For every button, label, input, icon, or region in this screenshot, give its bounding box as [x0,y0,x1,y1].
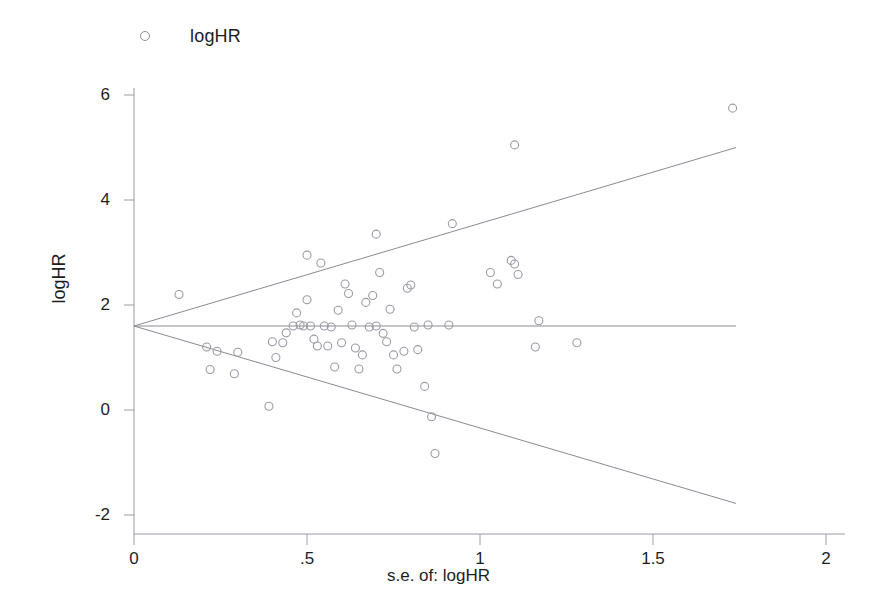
scatter-point [535,317,543,325]
scatter-point [379,329,387,337]
scatter-point [431,450,439,458]
scatter-point [369,292,377,300]
scatter-point [362,298,370,306]
scatter-point [383,338,391,346]
scatter-point [230,370,238,378]
scatter-point [414,346,422,354]
scatter-point [348,321,356,329]
y-tick-label-0: 0 [84,400,110,420]
plot-canvas [0,0,877,616]
scatter-point [729,104,737,112]
scatter-point [445,321,453,329]
y-tick-label-4: 4 [84,190,110,210]
scatter-point [514,271,522,279]
scatter-point [345,289,353,297]
scatter-point [338,339,346,347]
scatter-point [424,321,432,329]
scatter-point [448,220,456,228]
scatter-point [358,351,366,359]
scatter-point [341,280,349,288]
scatter-point [393,365,401,373]
funnel-plot-figure: logHR [0,0,877,616]
y-tick-label-2: 2 [84,295,110,315]
y-tick-label-neg2: -2 [76,505,110,525]
scatter-point [324,342,332,350]
scatter-point [486,268,494,276]
scatter-point [421,382,429,390]
y-axis-title: logHR [49,234,70,324]
scatter-point [400,347,408,355]
scatter-point [376,268,384,276]
scatter-point [313,342,321,350]
scatter-point [410,323,418,331]
scatter-point [268,338,276,346]
scatter-point [317,259,325,267]
scatter-point [493,280,501,288]
scatter-point [334,306,342,314]
y-axis-ticks [124,95,134,515]
scatter-point [355,365,363,373]
scatter-point [531,343,539,351]
scatter-point [511,141,519,149]
scatter-point [206,366,214,374]
x-axis-ticks [134,534,826,545]
scatter-point [390,351,398,359]
scatter-point [272,354,280,362]
scatter-point [351,344,359,352]
scatter-point [386,305,394,313]
scatter-point [303,296,311,304]
scatter-point [293,309,301,317]
scatter-point [234,348,242,356]
scatter-point [279,339,287,347]
scatter-point [331,363,339,371]
scatter-point [372,230,380,238]
x-axis-title: s.e. of: logHR [0,566,877,586]
scatter-point [265,402,273,410]
scatter-point [175,291,183,299]
y-tick-label-6: 6 [84,85,110,105]
scatter-point [303,251,311,259]
upper-95-limit-line [134,148,736,327]
scatter-point [573,339,581,347]
scatter-point [282,329,290,337]
scatter-points [175,104,737,457]
axis-lines [134,88,845,534]
